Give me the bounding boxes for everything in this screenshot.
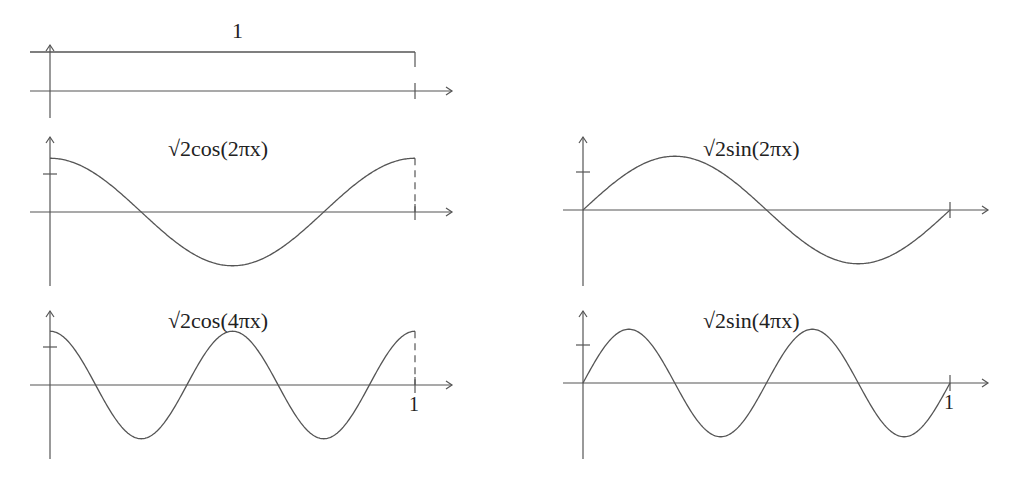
x-tick-label-1: 1 bbox=[944, 391, 954, 414]
x-tick-label-1: 1 bbox=[409, 393, 419, 416]
plot-title: 1 bbox=[232, 18, 243, 44]
plot-title: √2sin(4πx) bbox=[703, 308, 800, 334]
haar-fourier-basis-figure bbox=[0, 0, 1017, 487]
plot-title: √2sin(2πx) bbox=[703, 136, 800, 162]
plot-title: √2cos(4πx) bbox=[168, 308, 268, 334]
plot-title: √2cos(2πx) bbox=[168, 136, 268, 162]
